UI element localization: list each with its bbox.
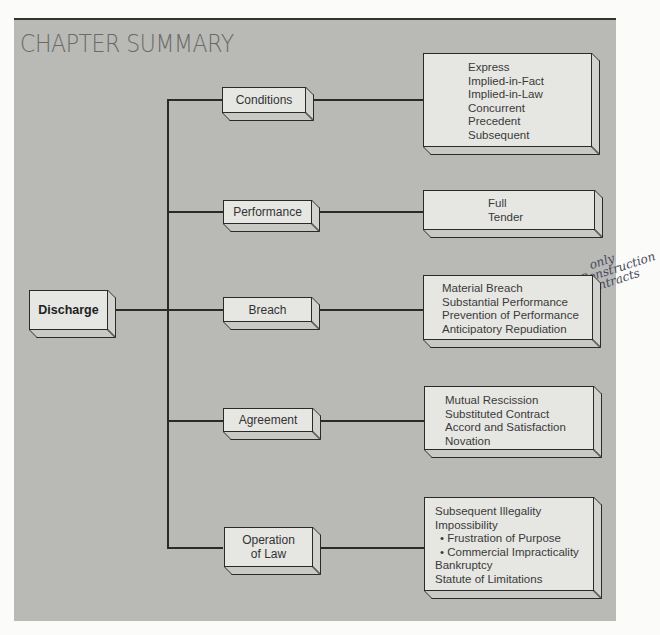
list-item: Precedent <box>468 115 544 129</box>
operation-of-law-list: Subsequent Illegality Impossibility • Fr… <box>435 505 579 586</box>
page-title: CHAPTER SUMMARY <box>20 29 234 58</box>
list-item: Subsequent <box>468 129 544 143</box>
operation-of-law-label: Operation of Law <box>225 533 312 561</box>
breach-label: Breach <box>224 303 311 317</box>
list-item: Novation <box>445 435 566 449</box>
list-item: Mutual Rescission <box>445 394 566 408</box>
connector-conditions-right <box>306 99 423 101</box>
operation-of-law-box: Operation of Law <box>224 527 313 567</box>
agreement-box: Agreement <box>223 408 313 432</box>
conditions-label: Conditions <box>223 93 305 107</box>
breach-list: Material Breach Substantial Performance … <box>442 282 579 336</box>
agreement-list-box: Mutual Rescission Substituted Contract A… <box>424 386 594 450</box>
list-item: Prevention of Performance <box>442 309 579 323</box>
conditions-list: Express Implied-in-Fact Implied-in-Law C… <box>468 61 544 142</box>
list-item: • Commercial Impracticality <box>435 546 579 560</box>
list-item: Impossibility <box>435 519 579 533</box>
conditions-box: Conditions <box>222 87 306 113</box>
connector-conditions-left <box>167 99 222 101</box>
list-item: Material Breach <box>442 282 579 296</box>
conditions-list-box: Express Implied-in-Fact Implied-in-Law C… <box>423 53 592 147</box>
list-item: Tender <box>488 211 523 225</box>
list-item: Accord and Satisfaction <box>445 421 566 435</box>
connector-performance-left <box>167 211 223 213</box>
list-item: Concurrent <box>468 102 544 116</box>
performance-list-box: Full Tender <box>423 190 595 230</box>
spine-vertical <box>167 99 169 548</box>
agreement-list: Mutual Rescission Substituted Contract A… <box>445 394 566 448</box>
list-item: Implied-in-Law <box>468 88 544 102</box>
list-item: Statute of Limitations <box>435 573 579 587</box>
list-item: Anticipatory Repudiation <box>442 323 579 337</box>
agreement-label: Agreement <box>224 413 312 427</box>
performance-box: Performance <box>223 200 312 224</box>
discharge-box: Discharge <box>29 290 108 330</box>
connector-operation-right <box>313 547 424 549</box>
discharge-label: Discharge <box>30 303 107 317</box>
performance-label: Performance <box>224 205 311 219</box>
list-item: Express <box>468 61 544 75</box>
list-item: Substantial Performance <box>442 296 579 310</box>
connector-agreement-right <box>313 420 424 422</box>
connector-breach-left <box>167 309 223 311</box>
list-item: Implied-in-Fact <box>468 75 544 89</box>
connector-performance-right <box>312 211 423 213</box>
connector-agreement-left <box>167 420 223 422</box>
connector-operation-left <box>167 547 223 549</box>
connector-root-spine <box>108 309 167 311</box>
list-item: Bankruptcy <box>435 559 579 573</box>
list-item: • Frustration of Purpose <box>435 532 579 546</box>
list-item: Subsequent Illegality <box>435 505 579 519</box>
breach-list-box: Material Breach Substantial Performance … <box>423 275 593 340</box>
list-item: Substituted Contract <box>445 408 566 422</box>
operation-of-law-list-box: Subsequent Illegality Impossibility • Fr… <box>424 497 594 591</box>
connector-breach-right <box>312 309 423 311</box>
list-item: Full <box>488 197 523 211</box>
breach-box: Breach <box>223 297 312 322</box>
performance-list: Full Tender <box>488 197 523 224</box>
